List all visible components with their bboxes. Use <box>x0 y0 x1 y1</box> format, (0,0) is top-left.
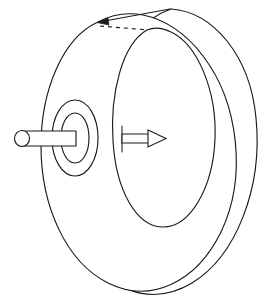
axle-end-cap <box>15 131 30 147</box>
axis-arrow-shaft <box>122 134 150 143</box>
figure-root <box>0 0 274 305</box>
wheel-axle-diagram <box>0 0 274 305</box>
axle-shaft <box>22 131 76 146</box>
